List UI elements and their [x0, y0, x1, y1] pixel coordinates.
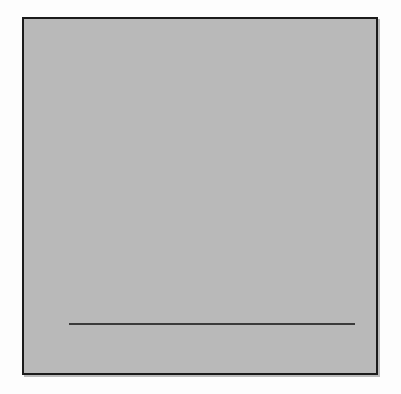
- page-root: [0, 0, 401, 394]
- chart-panel: [22, 17, 378, 375]
- chart-plot-area: [24, 19, 380, 377]
